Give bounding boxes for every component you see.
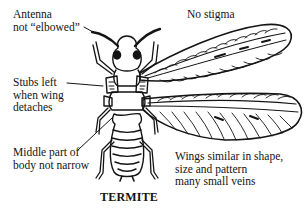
label-wings-line2: size and pattern: [175, 163, 283, 176]
leader-lines: [67, 83, 112, 150]
label-wings-line1: Wings similar in shape,: [175, 150, 283, 163]
middle-legs: [96, 108, 158, 134]
label-stubs-line3: detaches: [13, 101, 64, 114]
label-stubs-line2: when wing: [13, 89, 64, 102]
label-antenna-line1: Antenna: [13, 8, 80, 21]
termite-diagram: Antenna not “elbowed” No stigma Stubs le…: [0, 0, 308, 211]
head: [113, 36, 141, 71]
front-legs: [93, 42, 158, 74]
label-no-stigma-line1: No stigma: [187, 8, 235, 21]
label-antenna-line2: not “elbowed”: [13, 21, 80, 34]
lower-wing: [143, 93, 301, 140]
label-wings-line3: many small veins: [175, 175, 283, 188]
label-stubs: Stubs left when wing detaches: [13, 76, 64, 114]
upper-wing: [140, 24, 291, 82]
hind-legs: [96, 140, 158, 179]
label-wings: Wings similar in shape, size and pattern…: [175, 150, 283, 188]
diagram-title: TERMITE: [100, 190, 158, 205]
label-stubs-line1: Stubs left: [13, 76, 64, 89]
label-middle-body: Middle part of body not narrow: [13, 146, 89, 171]
label-middle-line1: Middle part of: [13, 146, 89, 159]
label-middle-line2: body not narrow: [13, 159, 89, 172]
abdomen: [110, 114, 143, 181]
antennae: [92, 29, 160, 46]
label-no-stigma: No stigma: [187, 8, 235, 21]
label-antenna: Antenna not “elbowed”: [13, 8, 80, 33]
